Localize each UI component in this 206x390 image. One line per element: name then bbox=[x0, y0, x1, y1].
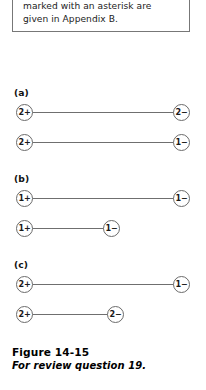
ion-charge-label: 1− bbox=[175, 280, 187, 288]
ion-node-anion: 1− bbox=[173, 276, 190, 293]
ion-pair-row: 2+2− bbox=[0, 306, 206, 324]
figure-caption: Figure 14-15 For review question 19. bbox=[12, 346, 202, 372]
bond-line bbox=[31, 112, 175, 113]
ion-node-cation: 2+ bbox=[16, 276, 33, 293]
ion-pair-row: 2+2− bbox=[0, 104, 206, 122]
ion-node-cation: 2+ bbox=[16, 306, 33, 323]
continuation-text-box: marked with an asterisk are given in App… bbox=[12, 0, 190, 32]
ion-charge-label: 1− bbox=[175, 194, 187, 202]
group-label-3: (c) bbox=[14, 259, 28, 270]
group-label-2: (b) bbox=[14, 173, 29, 184]
ion-node-anion: 2− bbox=[107, 306, 124, 323]
bond-line bbox=[31, 284, 175, 285]
bond-line bbox=[31, 314, 109, 315]
ion-node-anion: 1− bbox=[173, 134, 190, 151]
bond-line bbox=[31, 228, 105, 229]
ion-node-cation: 2+ bbox=[16, 134, 33, 151]
ion-charge-label: 2− bbox=[109, 310, 121, 318]
ion-charge-label: 1+ bbox=[18, 194, 30, 202]
ion-charge-label: 1− bbox=[175, 138, 187, 146]
textbox-line-1: marked with an asterisk are bbox=[23, 0, 181, 13]
ion-pair-row: 2+1− bbox=[0, 134, 206, 152]
ion-node-cation: 1+ bbox=[16, 190, 33, 207]
bond-line bbox=[31, 142, 175, 143]
ion-node-anion: 2− bbox=[173, 104, 190, 121]
ion-node-anion: 1− bbox=[103, 220, 120, 237]
ion-charge-label: 2+ bbox=[18, 280, 30, 288]
ion-charge-label: 2+ bbox=[18, 310, 30, 318]
group-label-1: (a) bbox=[14, 87, 29, 98]
ion-pair-row: 2+1− bbox=[0, 276, 206, 294]
ion-pair-row: 1+1− bbox=[0, 190, 206, 208]
textbox-line-2: given in Appendix B. bbox=[23, 13, 181, 26]
ion-node-cation: 1+ bbox=[16, 220, 33, 237]
figure-diagram: (a)2+2−2+1−(b)1+1−1+1−(c)2+1−2+2− bbox=[0, 32, 206, 342]
ion-charge-label: 2− bbox=[175, 108, 187, 116]
bond-line bbox=[31, 198, 175, 199]
ion-charge-label: 1+ bbox=[18, 224, 30, 232]
ion-charge-label: 2+ bbox=[18, 108, 30, 116]
ion-node-cation: 2+ bbox=[16, 104, 33, 121]
figure-caption-title: Figure 14-15 bbox=[12, 346, 202, 359]
ion-charge-label: 2+ bbox=[18, 138, 30, 146]
ion-pair-row: 1+1− bbox=[0, 220, 206, 238]
ion-charge-label: 1− bbox=[105, 224, 117, 232]
figure-caption-subtitle: For review question 19. bbox=[12, 359, 202, 372]
ion-node-anion: 1− bbox=[173, 190, 190, 207]
